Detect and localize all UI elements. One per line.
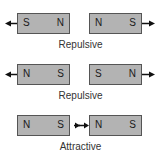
pole-label: S	[57, 68, 64, 80]
pole-label: N	[23, 68, 30, 80]
bar-magnet-right: N S	[89, 13, 142, 34]
pole-label: S	[57, 119, 64, 131]
pole-label: S	[23, 17, 30, 29]
bar-magnet-left: N S	[17, 64, 70, 85]
caption: Repulsive	[0, 90, 161, 102]
force-arrow-right-icon	[142, 71, 155, 78]
bar-magnet-right: S N	[89, 64, 142, 85]
pole-label: N	[95, 119, 102, 131]
pole-label: N	[57, 17, 64, 29]
bar-magnet-right: N S	[89, 115, 142, 136]
caption: Attractive	[0, 141, 161, 153]
pole-label: N	[23, 119, 30, 131]
bar-magnet-left: S N	[17, 13, 70, 34]
pole-label: N	[129, 68, 136, 80]
force-arrow-right-icon	[142, 20, 155, 27]
pole-label: S	[95, 68, 102, 80]
pole-label: S	[129, 119, 136, 131]
bar-magnet-left: N S	[17, 115, 70, 136]
caption: Repulsive	[0, 39, 161, 51]
pole-label: N	[95, 17, 102, 29]
pole-label: S	[129, 17, 136, 29]
force-arrow-inward-left-icon	[79, 122, 89, 129]
